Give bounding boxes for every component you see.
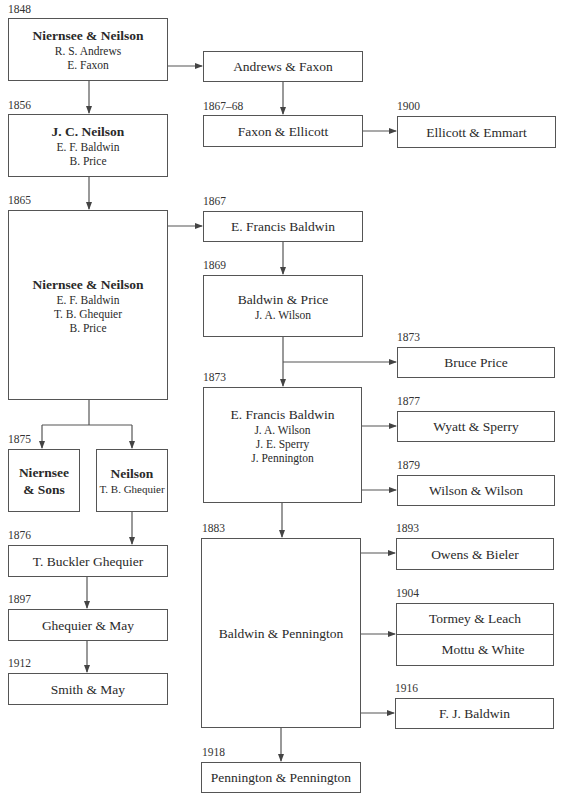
member: R. S. Andrews [55, 44, 121, 58]
year-label: 1867–68 [203, 100, 243, 112]
year-label: 1873 [397, 331, 420, 343]
firm-box-tormey-mottu: Tormey & Leach Mottu & White [396, 603, 554, 666]
firm-box-jc-neilson: J. C. Neilson E. F. Baldwin B. Price [8, 114, 168, 177]
firm-box-niernsee-neilson-1848: Niernsee & Neilson R. S. Andrews E. Faxo… [8, 18, 168, 81]
firm-name: F. J. Baldwin [439, 705, 510, 722]
year-label: 1876 [8, 529, 31, 541]
member: E. F. Baldwin [57, 140, 120, 154]
year-label: 1893 [396, 522, 419, 534]
member: J. E. Sperry [256, 437, 310, 451]
firm-name: Ghequier & May [42, 617, 134, 634]
firm-name: E. Francis Baldwin [231, 218, 335, 235]
firm-box-bruce-price: Bruce Price [397, 347, 555, 378]
firm-box-niernsee-neilson-1865: Niernsee & Neilson E. F. Baldwin T. B. G… [8, 210, 168, 400]
firm-box-fj-baldwin: F. J. Baldwin [395, 698, 554, 729]
firm-box-baldwin-pennington: Baldwin & Pennington [201, 538, 361, 728]
firm-name: J. C. Neilson [52, 123, 125, 140]
firm-name: Pennington & Pennington [211, 769, 351, 786]
firm-box-wilson-wilson: Wilson & Wilson [397, 475, 555, 506]
firm-box-e-francis-baldwin-1867: E. Francis Baldwin [203, 211, 363, 242]
firm-box-wyatt-sperry: Wyatt & Sperry [397, 411, 555, 442]
firm-name: Smith & May [51, 681, 125, 698]
member: T. B. Ghequier [54, 307, 122, 321]
firm-name: Wilson & Wilson [429, 482, 523, 499]
firm-name: Bruce Price [444, 354, 507, 371]
member: E. F. Baldwin [57, 293, 120, 307]
firm-box-andrews-faxon: Andrews & Faxon [203, 51, 363, 82]
year-label: 1900 [397, 100, 420, 112]
year-label: 1848 [8, 3, 31, 15]
year-label: 1869 [203, 259, 226, 271]
firm-box-faxon-ellicott: Faxon & Ellicott [203, 115, 363, 147]
firm-name: T. Buckler Ghequier [33, 553, 143, 570]
firm-box-owens-bieler: Owens & Bieler [396, 538, 554, 570]
firm-name-line: & Sons [23, 481, 65, 498]
year-label: 1875 [8, 433, 31, 445]
firm-box-smith-may: Smith & May [8, 673, 168, 705]
year-label: 1918 [202, 746, 225, 758]
member: B. Price [69, 321, 106, 335]
year-label: 1856 [8, 99, 31, 111]
firm-name: Niernsee & Neilson [33, 27, 144, 44]
firm-box-baldwin-price: Baldwin & Price J. A. Wilson [203, 275, 363, 337]
firm-box-neilson: Neilson T. B. Ghequier [96, 449, 168, 512]
member: T. B. Ghequier [99, 482, 164, 496]
member: J. A. Wilson [254, 423, 310, 437]
year-label: 1883 [202, 522, 225, 534]
member: J. A. Wilson [255, 308, 311, 322]
year-label: 1897 [8, 593, 31, 605]
firm-box-niernsee-sons: Niernsee & Sons [8, 449, 80, 512]
firm-box-ghequier-may: Ghequier & May [8, 609, 168, 641]
firm-name: Faxon & Ellicott [238, 123, 329, 140]
member: J. Pennington [251, 451, 314, 465]
year-label: 1867 [203, 195, 226, 207]
firm-name: Owens & Bieler [431, 546, 519, 563]
firm-box-pennington-pennington: Pennington & Pennington [201, 762, 361, 793]
year-label: 1904 [396, 587, 419, 599]
firm-name: Niernsee & Neilson [33, 276, 144, 293]
firm-name-mottu-white: Mottu & White [397, 634, 553, 665]
member: B. Price [69, 154, 106, 168]
firm-box-t-buckler-ghequier: T. Buckler Ghequier [8, 545, 168, 577]
firm-name: Neilson [111, 465, 154, 482]
firm-box-ellicott-emmart: Ellicott & Emmart [397, 116, 556, 148]
firm-name-line: Niernsee [19, 464, 69, 481]
year-label: 1879 [397, 459, 420, 471]
firm-name-tormey-leach: Tormey & Leach [397, 604, 553, 634]
year-label: 1916 [395, 682, 418, 694]
firm-name: Ellicott & Emmart [426, 124, 526, 141]
firm-name: E. Francis Baldwin [231, 406, 335, 423]
year-label: 1873 [203, 371, 226, 383]
year-label: 1877 [397, 395, 420, 407]
member: E. Faxon [67, 58, 109, 72]
year-label: 1865 [8, 194, 31, 206]
firm-box-e-francis-baldwin-1873: E. Francis Baldwin J. A. Wilson J. E. Sp… [203, 387, 362, 503]
firm-name: Baldwin & Price [238, 291, 329, 308]
firm-name: Andrews & Faxon [233, 58, 333, 75]
firm-name: Wyatt & Sperry [433, 418, 518, 435]
firm-name: Baldwin & Pennington [219, 625, 344, 642]
year-label: 1912 [8, 657, 31, 669]
